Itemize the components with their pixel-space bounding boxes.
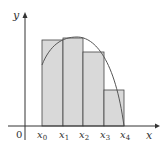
riemann-sum-figure: y x 0 x0 x1 x2 x3 x4 <box>0 0 167 147</box>
x-axis-label: x <box>146 129 153 142</box>
y-axis-label: y <box>12 9 20 22</box>
y-axis-arrow-icon <box>23 12 28 18</box>
tick-labels: x0 x1 x2 x3 x4 <box>37 129 131 142</box>
rectangles <box>42 38 124 126</box>
tick-label-x2: x2 <box>79 129 89 142</box>
rectangle-3 <box>83 52 104 126</box>
origin-label: 0 <box>16 129 22 140</box>
rectangle-2 <box>63 38 83 126</box>
rectangle-1 <box>42 40 63 126</box>
tick-label-x3: x3 <box>100 129 110 142</box>
tick-label-x4: x4 <box>120 129 131 142</box>
x-axis-arrow-icon <box>155 124 160 129</box>
tick-label-x0: x0 <box>37 129 47 142</box>
tick-label-x1: x1 <box>59 129 69 142</box>
